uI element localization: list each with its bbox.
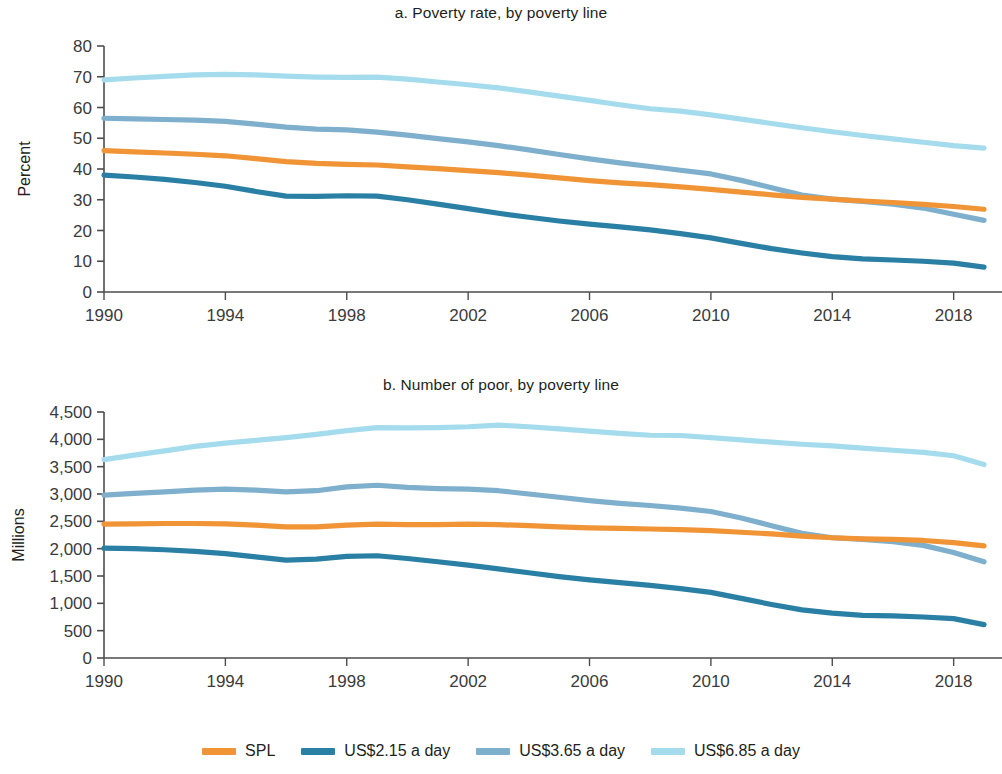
svg-text:10: 10 <box>73 252 92 271</box>
svg-text:Percent: Percent <box>16 141 33 197</box>
svg-text:40: 40 <box>73 160 92 179</box>
svg-text:1990: 1990 <box>85 306 123 325</box>
svg-text:2014: 2014 <box>813 306 851 325</box>
poverty-figure: a. Poverty rate, by poverty line 0102030… <box>0 0 1002 774</box>
svg-text:500: 500 <box>64 622 92 641</box>
svg-text:1998: 1998 <box>328 306 366 325</box>
legend-item[interactable]: US$2.15 a day <box>301 742 450 760</box>
legend-swatch-icon <box>202 748 236 755</box>
svg-text:2010: 2010 <box>692 306 730 325</box>
svg-text:1990: 1990 <box>85 672 123 691</box>
legend-item-label: US$6.85 a day <box>694 742 800 760</box>
svg-text:20: 20 <box>73 222 92 241</box>
svg-text:2014: 2014 <box>813 672 851 691</box>
svg-text:4,500: 4,500 <box>49 403 92 422</box>
svg-text:2006: 2006 <box>571 306 609 325</box>
panel-number-of-poor: b. Number of poor, by poverty line 05001… <box>0 370 1002 705</box>
svg-text:2002: 2002 <box>449 672 487 691</box>
svg-text:1,000: 1,000 <box>49 594 92 613</box>
svg-text:1994: 1994 <box>206 306 244 325</box>
svg-text:1998: 1998 <box>328 672 366 691</box>
legend-swatch-icon <box>651 748 685 755</box>
legend-swatch-icon <box>301 748 335 755</box>
svg-text:1994: 1994 <box>206 672 244 691</box>
panel-poverty-rate: a. Poverty rate, by poverty line 0102030… <box>0 0 1002 355</box>
svg-text:2018: 2018 <box>935 306 973 325</box>
chart-a-canvas: 0102030405060708019901994199820022006201… <box>0 30 1002 330</box>
chart-b-canvas: 05001,0001,5002,0002,5003,0003,5004,0004… <box>0 400 1002 700</box>
legend-item-label: US$3.65 a day <box>519 742 625 760</box>
svg-text:1,500: 1,500 <box>49 567 92 586</box>
svg-text:3,000: 3,000 <box>49 485 92 504</box>
panel-b-title: b. Number of poor, by poverty line <box>0 376 1002 394</box>
svg-text:80: 80 <box>73 37 92 56</box>
svg-text:30: 30 <box>73 191 92 210</box>
svg-text:0: 0 <box>83 649 92 668</box>
svg-text:60: 60 <box>73 99 92 118</box>
svg-text:2,500: 2,500 <box>49 512 92 531</box>
svg-text:2002: 2002 <box>449 306 487 325</box>
legend-item[interactable]: US$6.85 a day <box>651 742 800 760</box>
svg-text:4,000: 4,000 <box>49 430 92 449</box>
svg-text:2018: 2018 <box>935 672 973 691</box>
legend-item-label: US$2.15 a day <box>344 742 450 760</box>
svg-text:2006: 2006 <box>571 672 609 691</box>
svg-text:2010: 2010 <box>692 672 730 691</box>
svg-text:50: 50 <box>73 129 92 148</box>
legend-item[interactable]: SPL <box>202 742 275 760</box>
svg-text:70: 70 <box>73 68 92 87</box>
panel-a-title: a. Poverty rate, by poverty line <box>0 4 1002 22</box>
legend-item[interactable]: US$3.65 a day <box>476 742 625 760</box>
svg-text:Millions: Millions <box>10 508 27 561</box>
chart-legend: SPLUS$2.15 a dayUS$3.65 a dayUS$6.85 a d… <box>0 742 1002 760</box>
legend-swatch-icon <box>476 748 510 755</box>
legend-item-label: SPL <box>245 742 275 760</box>
svg-text:2,000: 2,000 <box>49 540 92 559</box>
svg-text:0: 0 <box>83 283 92 302</box>
svg-text:3,500: 3,500 <box>49 458 92 477</box>
